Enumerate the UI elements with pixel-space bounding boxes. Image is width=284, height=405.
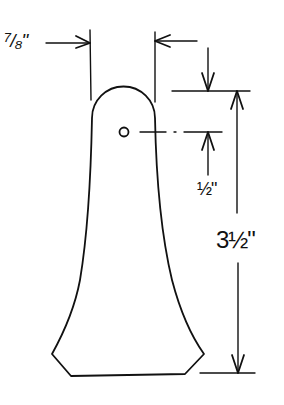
height-dimension-label: 3½" xyxy=(216,228,255,252)
width-arrow-left xyxy=(46,36,90,48)
width-arrow-right xyxy=(155,35,197,47)
width-dimension-label: ⁷/₈" xyxy=(4,31,27,50)
hole-offset-arrow-down xyxy=(202,48,214,91)
width-extension-left xyxy=(90,30,91,100)
hole-offset-dimension-label: ½" xyxy=(197,180,216,198)
height-arrow-up xyxy=(231,91,243,213)
height-arrow-down xyxy=(232,263,244,373)
technical-drawing xyxy=(0,0,284,405)
hole-offset-arrow-up xyxy=(202,132,214,175)
pivot-hole xyxy=(120,128,129,137)
